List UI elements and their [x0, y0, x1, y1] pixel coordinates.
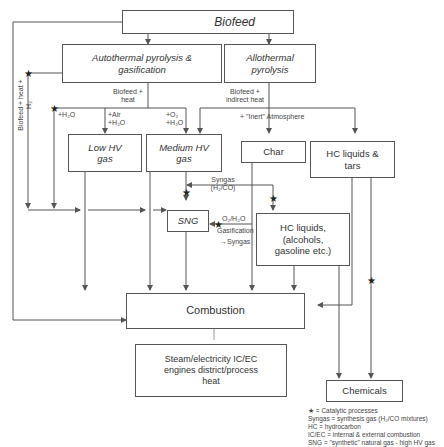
- node-combustion: Combustion: [126, 293, 305, 329]
- legend-syngas-definition: Syngas = synthesis gas (H₂/CO mixtures): [308, 415, 428, 423]
- label-o2-h2o-gasification: O₂/H₂O: [222, 215, 245, 223]
- label-inert-atmosphere: + "Inert" Atmosphere: [240, 113, 304, 121]
- label-air-h2o: +Air +H₂O: [108, 111, 130, 127]
- node-biofeed: Biofeed: [122, 10, 294, 34]
- node-autothermal-pyrolysis: Autothermal pyrolysis & gasification: [62, 44, 222, 83]
- node-chemicals: Chemicals: [326, 380, 403, 402]
- label-biofeed-indirect-heat: Biofeed + indirect heat: [222, 88, 268, 104]
- svg-text:★: ★: [269, 193, 278, 204]
- label-o2-h2o: +O₂ +H₂O: [166, 111, 188, 127]
- node-hc-liquids-tars: HC liquids & tars: [310, 141, 395, 178]
- label-biofeed-heat: Biofeed + heat: [108, 88, 148, 104]
- legend-catalytic: ★ = Catalytic processes: [308, 407, 378, 415]
- node-char: Char: [241, 141, 306, 163]
- node-low-hv-gas: Low HV gas: [68, 134, 142, 172]
- node-hc-liquids-alcohols: HC liquids, (alcohols, gasoline etc.): [256, 213, 350, 266]
- label-gasification: Gasification: [217, 227, 254, 235]
- legend-icec-definition: IC/EC = internal & external combustion: [308, 431, 420, 439]
- node-medium-hv-gas: Medium HV gas: [146, 134, 222, 172]
- svg-text:★: ★: [367, 275, 376, 286]
- node-steam-electricity: Steam/electricity IC/EC engines district…: [135, 344, 287, 397]
- legend-sng-definition: SNG = "synthetic" natural gas - high HV …: [308, 439, 435, 447]
- label-biofeed-heat-h2: Biofeed + heat + H₂: [17, 75, 32, 135]
- label-h2o: +H₂O: [58, 111, 75, 119]
- svg-text:★: ★: [182, 187, 191, 198]
- node-sng: SNG: [167, 210, 209, 232]
- label-to-syngas: →Syngas: [220, 238, 250, 246]
- node-allothermal-pyrolysis: Allothermal pyrolysis: [224, 44, 316, 83]
- label-syngas: Syngas (H₂/CO): [208, 176, 238, 192]
- legend-hc-definition: HC = hydrocarbon: [308, 423, 361, 431]
